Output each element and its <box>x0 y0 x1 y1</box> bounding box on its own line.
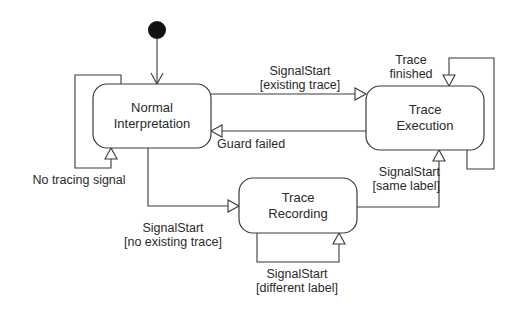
self-loop-recording-arrowhead <box>333 233 345 244</box>
transition-label-no-tracing-signal: No tracing signal <box>24 173 134 187</box>
state-label-line: Trace <box>409 102 442 118</box>
transition-label-same-label: SignalStart [same label] <box>362 165 440 193</box>
state-label-line: Interpretation <box>114 116 191 132</box>
label-line: [same label] <box>362 179 440 193</box>
label-line: SignalStart <box>113 221 233 235</box>
label-line: Trace <box>386 53 436 67</box>
transition-recording-to-execution-arrowhead <box>433 150 445 161</box>
label-line: No tracing signal <box>32 173 125 187</box>
state-normal-interpretation: Normal Interpretation <box>93 84 211 148</box>
label-line: [no existing trace] <box>113 235 233 249</box>
self-loop-execution-arrowhead <box>443 75 455 86</box>
transition-execution-to-normal-arrowhead <box>211 125 222 137</box>
transition-normal-to-recording-line <box>148 148 229 206</box>
label-line: [existing trace] <box>250 78 350 92</box>
transition-label-existing-trace: SignalStart [existing trace] <box>250 64 350 92</box>
transition-label-guard-failed: Guard failed <box>217 137 297 151</box>
transition-label-no-existing-trace: SignalStart [no existing trace] <box>113 221 233 249</box>
state-trace-execution: Trace Execution <box>366 86 484 150</box>
transition-label-different-label: SignalStart [different label] <box>242 267 352 295</box>
label-line: [different label] <box>242 281 352 295</box>
label-line: Guard failed <box>217 137 285 151</box>
label-line: SignalStart <box>250 64 350 78</box>
transition-label-trace-finished: Trace finished <box>386 53 436 81</box>
self-loop-normal-arrowhead <box>105 148 117 159</box>
label-line: SignalStart <box>362 165 440 179</box>
label-line: finished <box>386 67 436 81</box>
state-diagram: Normal Interpretation Trace Execution Tr… <box>0 0 518 314</box>
label-line: SignalStart <box>242 267 352 281</box>
state-label-line: Execution <box>396 118 453 134</box>
transition-normal-to-recording-arrowhead <box>228 200 239 212</box>
self-loop-recording-line <box>257 233 339 262</box>
state-label-line: Trace <box>282 190 315 206</box>
state-trace-recording: Trace Recording <box>239 178 357 233</box>
state-label-line: Recording <box>268 206 327 222</box>
initial-state-dot <box>148 21 166 39</box>
state-label-line: Normal <box>131 100 173 116</box>
transition-normal-to-execution-arrowhead <box>355 88 366 100</box>
